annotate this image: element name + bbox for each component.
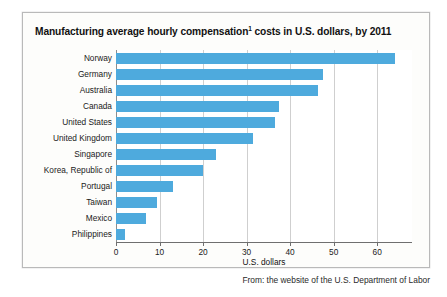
- category-label-canada: Canada: [23, 98, 112, 114]
- x-tick-label-40: 40: [285, 247, 294, 257]
- bar-philippines: [116, 229, 125, 240]
- bar-row: [116, 82, 412, 98]
- bar-taiwan: [116, 197, 157, 208]
- x-tick-label-30: 30: [242, 247, 251, 257]
- x-tick-mark-50: [334, 242, 335, 246]
- bar-row: [116, 194, 412, 210]
- bar-row: [116, 146, 412, 162]
- bar-row: [116, 66, 412, 82]
- bar-norway: [116, 53, 395, 64]
- bar-row: [116, 178, 412, 194]
- bar-row: [116, 50, 412, 66]
- category-label-united-kingdom: United Kingdom: [23, 130, 112, 146]
- category-label-portugal: Portugal: [23, 178, 112, 194]
- category-label-singapore: Singapore: [23, 146, 112, 162]
- bar-canada: [116, 101, 279, 112]
- bar-row: [116, 226, 412, 242]
- category-label-korea-republic-of: Korea, Republic of: [23, 162, 112, 178]
- x-axis-ticks: 0102030405060: [116, 242, 412, 258]
- chart-title-prefix: Manufacturing average hourly compensatio…: [35, 26, 248, 37]
- x-tick-mark-20: [203, 242, 204, 246]
- x-tick-mark-30: [247, 242, 248, 246]
- x-tick-mark-0: [116, 242, 117, 246]
- x-tick-label-50: 50: [329, 247, 338, 257]
- x-tick-label-20: 20: [198, 247, 207, 257]
- chart-title: Manufacturing average hourly compensatio…: [35, 23, 423, 38]
- bar-row: [116, 98, 412, 114]
- bar-mexico: [116, 213, 146, 224]
- category-label-philippines: Philippines: [23, 226, 112, 242]
- x-tick-mark-60: [377, 242, 378, 246]
- bar-portugal: [116, 181, 173, 192]
- category-label-mexico: Mexico: [23, 210, 112, 226]
- x-tick-label-0: 0: [114, 247, 119, 257]
- bar-australia: [116, 85, 318, 96]
- bar-row: [116, 130, 412, 146]
- x-tick-mark-40: [290, 242, 291, 246]
- chart-figure-frame: Manufacturing average hourly compensatio…: [22, 12, 430, 268]
- source-caption: From: the website of the U.S. Department…: [22, 275, 430, 285]
- x-axis-title: U.S. dollars: [116, 257, 412, 267]
- chart-title-suffix: costs in U.S. dollars, by 2011: [252, 26, 392, 37]
- bar-germany: [116, 69, 323, 80]
- category-label-australia: Australia: [23, 82, 112, 98]
- bar-united-kingdom: [116, 133, 253, 144]
- category-label-taiwan: Taiwan: [23, 194, 112, 210]
- category-label-germany: Germany: [23, 66, 112, 82]
- category-label-united-states: United States: [23, 114, 112, 130]
- bar-korea-republic-of: [116, 165, 203, 176]
- category-axis-labels: NorwayGermanyAustraliaCanadaUnited State…: [23, 50, 112, 242]
- bar-row: [116, 162, 412, 178]
- bar-series: [116, 50, 412, 242]
- category-label-norway: Norway: [23, 50, 112, 66]
- x-tick-label-60: 60: [373, 247, 382, 257]
- x-tick-label-10: 10: [155, 247, 164, 257]
- plot-area: [116, 50, 412, 242]
- bar-united-states: [116, 117, 275, 128]
- bar-singapore: [116, 149, 216, 160]
- bar-row: [116, 210, 412, 226]
- x-tick-mark-10: [160, 242, 161, 246]
- bar-row: [116, 114, 412, 130]
